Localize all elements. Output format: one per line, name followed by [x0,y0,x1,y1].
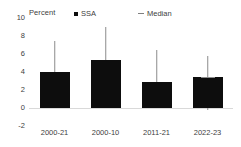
y-tick-label: -2 [18,122,25,130]
x-axis-labels: 2000-212000-102011-212022-23 [29,128,233,142]
y-tick-label: 8 [21,32,25,40]
legend-label-median: Median [147,9,172,18]
square-marker-icon [74,12,78,16]
legend-label-ssa: SSA [81,9,96,18]
bar [40,72,70,108]
y-tick-label: 4 [21,68,25,76]
bar-group [131,18,182,126]
dash-marker-icon [138,13,144,15]
x-tick-label: 2000-10 [92,128,120,137]
bar-group [29,18,80,126]
bar [91,60,121,108]
y-tick-label: 2 [21,86,25,94]
bar [193,77,223,109]
x-tick-label: 2011-21 [143,128,170,137]
legend-item-ssa: SSA [74,9,96,18]
plot-area: 1086420-2 [29,18,233,126]
x-tick-label: 2022-23 [194,128,222,137]
y-tick-label: 10 [17,14,25,22]
bar-group [80,18,131,126]
chart-legend: SSA Median [74,9,172,18]
bar-group [182,18,233,126]
bar-series-group [29,18,233,126]
y-tick-label: 6 [21,50,25,58]
x-tick-label: 2000-21 [41,128,69,137]
legend-item-median: Median [138,9,172,18]
bar-chart: Percent SSA Median 1086420-2 2000-212000… [0,0,241,147]
median-marker [201,77,215,79]
bar [142,82,172,108]
y-axis-title: Percent [29,8,56,17]
y-tick-label: 0 [21,104,25,112]
